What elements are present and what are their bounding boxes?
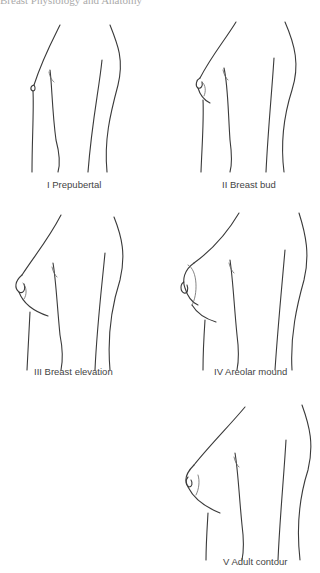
- stage-2-label: II Breast bud: [222, 179, 276, 190]
- stage-5-illustration: [160, 385, 320, 573]
- stage-1-illustration: [0, 0, 160, 195]
- stage-4-panel: IV Areolar mound: [160, 195, 320, 385]
- stage-3-panel: III Breast elevation: [0, 195, 160, 385]
- stage-5-panel: V Adult contour: [160, 385, 320, 573]
- stage-3-illustration: [0, 195, 160, 385]
- stage-4-label: IV Areolar mound: [214, 366, 287, 377]
- stage-2-illustration: [160, 0, 320, 195]
- stage-1-label: I Prepubertal: [47, 179, 101, 190]
- stage-4-illustration: [160, 195, 320, 385]
- stage-5-label: V Adult contour: [223, 556, 287, 567]
- stage-3-label: III Breast elevation: [34, 366, 113, 377]
- stage-2-panel: II Breast bud: [160, 0, 320, 195]
- stage-1-panel: I Prepubertal: [0, 0, 160, 195]
